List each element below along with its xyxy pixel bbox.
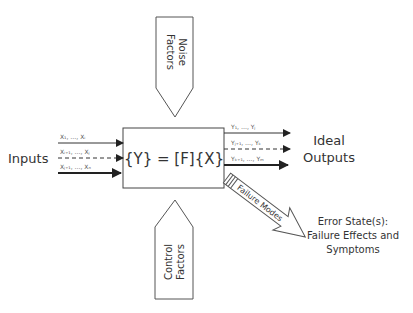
error-state-line1: Error State(s): xyxy=(318,216,388,227)
p-diagram: Noise Factors Control Factors {Y} = [F]{… xyxy=(0,0,413,313)
transfer-function-equation: {Y} = [F]{X} xyxy=(124,150,224,168)
failure-modes-arrow: Failure Modes xyxy=(219,167,314,248)
error-state-line2: Failure Effects and xyxy=(307,230,399,241)
control-factors-label-line2: Factors xyxy=(175,244,186,280)
control-factors-label-line1: Control xyxy=(163,244,174,280)
noise-factors-label-line1: Noise xyxy=(177,38,188,66)
noise-factors-arrow: Noise Factors xyxy=(156,17,193,117)
output-line-3-label: Yₖ₊₁, …, Yₘ xyxy=(230,155,264,162)
control-factors-arrow: Control Factors xyxy=(155,200,193,299)
failure-modes-label: Failure Modes xyxy=(235,183,284,223)
ideal-outputs-label-line1: Ideal xyxy=(313,133,345,148)
outputs-group: Y₁, …, Yⱼ Yⱼ₊₁, …, Yₖ Yₖ₊₁, …, Yₘ Ideal … xyxy=(224,123,355,165)
inputs-group: Inputs X₁, …, Xᵢ Xᵢ₊₁, …, Xⱼ Xⱼ₊₁, …, Xₙ xyxy=(8,133,123,173)
error-state-line3: Symptoms xyxy=(326,244,379,255)
input-line-3-label: Xⱼ₊₁, …, Xₙ xyxy=(60,163,91,170)
noise-factors-label-line2: Factors xyxy=(165,34,176,70)
inputs-label: Inputs xyxy=(8,151,49,166)
output-line-1-label: Y₁, …, Yⱼ xyxy=(230,123,255,130)
system-box: {Y} = [F]{X} xyxy=(123,128,224,188)
error-state-group: Error State(s): Failure Effects and Symp… xyxy=(307,216,399,255)
output-line-2-label: Yⱼ₊₁, …, Yₖ xyxy=(230,139,262,146)
input-line-1-label: X₁, …, Xᵢ xyxy=(60,133,85,140)
ideal-outputs-label-line2: Outputs xyxy=(303,150,355,165)
input-line-2-label: Xᵢ₊₁, …, Xⱼ xyxy=(60,148,90,155)
